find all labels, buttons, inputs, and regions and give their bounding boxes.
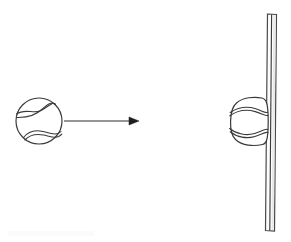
compressed-ball-group bbox=[230, 97, 269, 145]
motion-arrow-group bbox=[64, 117, 139, 125]
compressed-ball-outline bbox=[231, 97, 269, 145]
figure-canvas bbox=[0, 0, 291, 242]
incoming-ball-group bbox=[16, 98, 62, 144]
caption-smudge bbox=[8, 231, 94, 236]
motion-arrow-head bbox=[129, 117, 139, 125]
ball-impact-diagram bbox=[0, 0, 291, 242]
